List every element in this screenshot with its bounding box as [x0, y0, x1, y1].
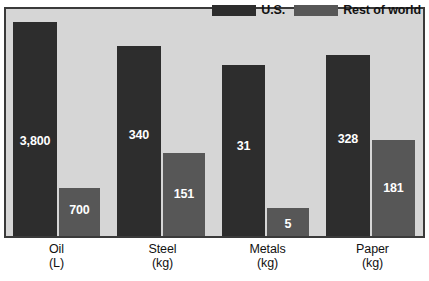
- category-unit: (kg): [110, 256, 215, 270]
- category-name: Oil: [4, 242, 109, 256]
- category-name: Metals: [215, 242, 320, 256]
- bar-value-label: 151: [163, 188, 205, 201]
- category-name: Paper: [320, 242, 425, 256]
- bar-paper-rest-of-world: 181: [372, 140, 415, 236]
- bar-value-label: 340: [117, 129, 161, 142]
- bar-metals-rest-of-world: 5: [267, 208, 309, 236]
- legend-item-us: U.S.: [212, 4, 285, 17]
- legend-label-rest-of-world: Rest of world: [343, 4, 421, 17]
- bar-metals-us: 31: [222, 65, 265, 236]
- bar-oil-us: 3,800: [13, 22, 57, 236]
- legend-swatch-us: [212, 5, 256, 16]
- legend-swatch-rest-of-world: [294, 5, 338, 16]
- bar-value-label: 5: [267, 218, 309, 231]
- bar-value-label: 181: [372, 182, 415, 195]
- bar-oil-rest-of-world: 700: [59, 188, 100, 236]
- bar-value-label: 31: [222, 140, 265, 153]
- bar-steel-rest-of-world: 151: [163, 153, 205, 236]
- legend-item-rest-of-world: Rest of world: [294, 4, 421, 17]
- category-unit: (kg): [320, 256, 425, 270]
- plot-area: 3,800700340151315328181: [4, 7, 425, 238]
- bars-container: 3,800700340151315328181: [6, 9, 423, 236]
- legend-label-us: U.S.: [261, 4, 285, 17]
- bar-steel-us: 340: [117, 46, 161, 236]
- category-label-steel: Steel(kg): [110, 242, 215, 270]
- bar-paper-us: 328: [326, 55, 370, 236]
- bar-value-label: 700: [59, 204, 100, 217]
- category-unit: (L): [4, 256, 109, 270]
- category-label-oil: Oil(L): [4, 242, 109, 270]
- chart-legend: U.S. Rest of world: [212, 4, 421, 17]
- category-axis-labels: Oil(L)Steel(kg)Metals(kg)Paper(kg): [4, 240, 425, 280]
- category-label-metals: Metals(kg): [215, 242, 320, 270]
- bar-value-label: 328: [326, 133, 370, 146]
- category-name: Steel: [110, 242, 215, 256]
- bar-value-label: 3,800: [13, 135, 57, 148]
- category-unit: (kg): [215, 256, 320, 270]
- bar-chart: U.S. Rest of world 3,8007003401513153281…: [0, 0, 429, 281]
- category-label-paper: Paper(kg): [320, 242, 425, 270]
